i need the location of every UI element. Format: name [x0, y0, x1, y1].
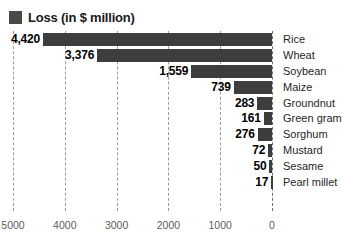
bar-row: 739Maize	[0, 80, 342, 96]
bar-value-label: 17	[255, 175, 268, 190]
bar-value-label: 283	[235, 96, 254, 111]
x-axis-tick-label: 1000	[209, 219, 232, 231]
bar-row: 4,420Rice	[0, 32, 342, 48]
category-label: Soybean	[283, 64, 326, 79]
bar	[234, 81, 272, 94]
category-label: Wheat	[283, 48, 315, 63]
bar-value-label: 739	[211, 80, 230, 95]
bar	[257, 97, 272, 110]
category-label: Rice	[283, 32, 305, 47]
bar-value-label: 72	[252, 143, 265, 158]
bar-chart: Loss (in $ million) 4,420Rice3,376Wheat1…	[0, 0, 342, 245]
bar	[191, 65, 272, 78]
category-label: Mustard	[283, 143, 323, 158]
x-axis-tick-label: 3000	[105, 219, 128, 231]
bar-value-label: 161	[241, 111, 260, 126]
bar	[269, 160, 272, 173]
bar	[97, 49, 272, 62]
bar	[271, 176, 273, 189]
legend-label: Loss (in $ million)	[28, 10, 135, 25]
bar-value-label: 3,376	[65, 48, 94, 63]
category-label: Maize	[283, 80, 312, 95]
category-label: Sesame	[283, 159, 323, 174]
bar-value-label: 276	[235, 127, 254, 142]
category-label: Groundnut	[283, 96, 335, 111]
bar-row: 50Sesame	[0, 159, 342, 175]
bar-row: 17Pearl millet	[0, 175, 342, 191]
square-swatch-icon	[9, 11, 22, 24]
bar-row: 161Green gram	[0, 111, 342, 127]
chart-legend: Loss (in $ million)	[9, 10, 135, 25]
cut-off-title	[6, 0, 156, 4]
plot-area: 4,420Rice3,376Wheat1,559Soybean739Maize2…	[0, 31, 342, 211]
x-axis-tick-label: 0	[269, 219, 275, 231]
bar-row: 283Groundnut	[0, 96, 342, 112]
bar-value-label: 50	[253, 159, 266, 174]
bar	[258, 128, 272, 141]
x-axis-tick-label: 5000	[1, 219, 24, 231]
bar	[43, 33, 272, 46]
category-label: Pearl millet	[283, 175, 337, 190]
bar-value-label: 4,420	[11, 32, 40, 47]
x-axis-tick-label: 2000	[157, 219, 180, 231]
x-axis: 500040003000200010000	[0, 213, 342, 233]
x-axis-tick-label: 4000	[53, 219, 76, 231]
category-label: Green gram	[283, 111, 342, 126]
bar	[264, 112, 272, 125]
bar-rows: 4,420Rice3,376Wheat1,559Soybean739Maize2…	[0, 32, 342, 191]
bar-row: 1,559Soybean	[0, 64, 342, 80]
bar	[268, 144, 272, 157]
bar-row: 276Sorghum	[0, 127, 342, 143]
bar-row: 72Mustard	[0, 143, 342, 159]
bar-value-label: 1,559	[159, 64, 188, 79]
bar-row: 3,376Wheat	[0, 48, 342, 64]
category-label: Sorghum	[283, 127, 328, 142]
